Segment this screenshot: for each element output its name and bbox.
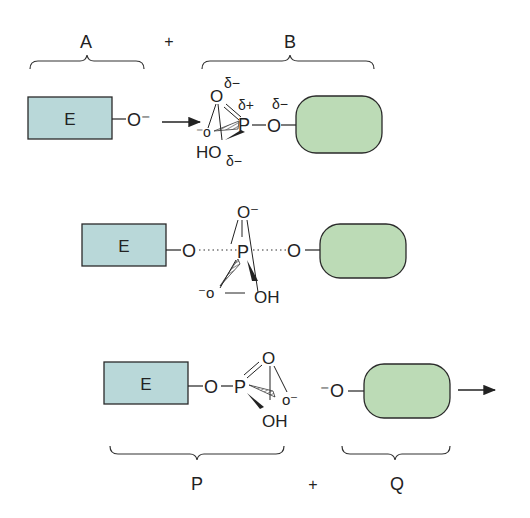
o-minus-1: ⁻o — [196, 124, 211, 140]
brace-b — [202, 55, 374, 69]
enzyme-label-2: E — [118, 237, 129, 256]
ester-o-3: O — [204, 377, 218, 397]
ho-1: HO — [196, 143, 222, 162]
brace-p — [110, 446, 284, 460]
substrate-box-2 — [320, 224, 406, 278]
brace-a — [30, 55, 144, 69]
brace-q — [342, 446, 450, 460]
delta-minus-bridge: δ− — [272, 96, 288, 112]
enzyme-label-3: E — [140, 375, 151, 394]
label-q: Q — [390, 474, 404, 494]
p-atom-3: P — [234, 377, 246, 397]
label-p: P — [191, 474, 203, 494]
left-o-2: O — [182, 241, 196, 261]
leaving-o-3: ⁻O — [320, 381, 344, 401]
top-o-2: O⁻ — [237, 203, 259, 222]
delta-minus-bottom: δ− — [226, 153, 242, 169]
right-o-2: O — [287, 241, 301, 261]
bridge-o-1: O — [267, 116, 281, 136]
o-minus-2: ⁻o — [198, 284, 214, 301]
delta-plus: δ+ — [238, 97, 254, 113]
phosphate-step1: O δ− δ+ P ⁻o HO δ− O δ− — [196, 75, 296, 169]
substrate-box-1 — [296, 96, 382, 153]
label-b: B — [284, 32, 296, 52]
p-atom-2: P — [237, 242, 249, 262]
reaction-diagram: A + B E O⁻ O δ− δ+ P ⁻o HO δ− O δ− E O P… — [0, 0, 530, 518]
plus-top: + — [164, 33, 173, 50]
enzyme-label-1: E — [64, 110, 75, 129]
label-a: A — [80, 32, 92, 52]
delta-minus-top: δ− — [224, 75, 240, 91]
o-minus-3: o⁻ — [282, 391, 298, 408]
plus-bottom: + — [308, 476, 317, 493]
oh-3: OH — [262, 412, 288, 431]
label-a-group: A — [30, 32, 144, 69]
substrate-box-3 — [364, 364, 450, 418]
label-b-group: B — [202, 32, 374, 69]
oh-2: OH — [254, 288, 280, 307]
top-o-3: O — [262, 349, 275, 368]
nucleophile-o: O⁻ — [127, 110, 151, 130]
apical-o-1: O — [210, 87, 223, 106]
